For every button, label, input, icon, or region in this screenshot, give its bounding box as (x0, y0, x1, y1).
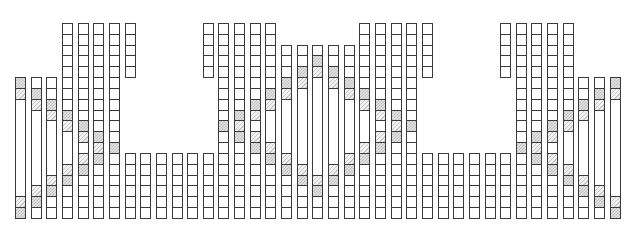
blank-cell (234, 207, 245, 219)
blank-cell (485, 207, 496, 219)
blank-cell (359, 207, 370, 219)
cell-column-diagram (0, 0, 633, 230)
blank-cell (453, 207, 464, 219)
dotted-cell (610, 207, 621, 219)
blank-cell (328, 207, 339, 219)
merged-cell (563, 131, 574, 165)
blank-cell (140, 207, 151, 219)
blank-cell (312, 207, 323, 219)
blank-cell (203, 66, 214, 78)
merged-cell (46, 120, 57, 175)
merged-cell (62, 131, 73, 165)
blank-cell (422, 207, 433, 219)
merged-cell (281, 99, 292, 154)
blank-cell (297, 207, 308, 219)
merged-cell (15, 99, 26, 198)
blank-cell (422, 66, 433, 78)
merged-cell (265, 110, 276, 144)
merged-cell (328, 88, 339, 165)
blank-cell (469, 207, 480, 219)
blank-cell (109, 207, 120, 219)
blank-cell (203, 207, 214, 219)
blank-cell (344, 207, 355, 219)
blank-cell (500, 66, 511, 78)
blank-cell (375, 207, 386, 219)
blank-cell (391, 207, 402, 219)
blank-cell (531, 207, 542, 219)
blank-cell (547, 207, 558, 219)
blank-cell (93, 207, 104, 219)
merged-cell (578, 120, 589, 175)
blank-cell (31, 207, 42, 219)
merged-cell (594, 110, 605, 187)
blank-cell (62, 207, 73, 219)
merged-cell (31, 110, 42, 187)
merged-cell (297, 88, 308, 165)
merged-cell (312, 77, 323, 176)
blank-cell (563, 207, 574, 219)
dotted-cell (15, 207, 26, 219)
blank-cell (187, 207, 198, 219)
blank-cell (281, 207, 292, 219)
merged-cell (359, 110, 370, 144)
blank-cell (406, 207, 417, 219)
merged-cell (610, 99, 621, 198)
blank-cell (516, 207, 527, 219)
blank-cell (438, 207, 449, 219)
blank-cell (500, 207, 511, 219)
merged-cell (344, 99, 355, 154)
blank-cell (265, 207, 276, 219)
blank-cell (172, 207, 183, 219)
blank-cell (218, 207, 229, 219)
blank-cell (578, 207, 589, 219)
blank-cell (250, 207, 261, 219)
blank-cell (46, 207, 57, 219)
blank-cell (78, 207, 89, 219)
blank-cell (156, 207, 167, 219)
blank-cell (125, 66, 136, 78)
blank-cell (594, 207, 605, 219)
blank-cell (125, 207, 136, 219)
